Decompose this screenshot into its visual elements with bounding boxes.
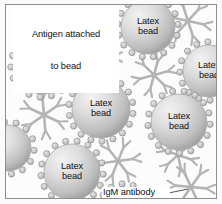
antigen-dot xyxy=(175,21,181,27)
antigen-dot xyxy=(174,32,180,38)
antigen-dot xyxy=(129,99,135,105)
latex-agglutination-figure: Latex beadLatex beadLatex beadLatex bead… xyxy=(0,0,222,204)
igm-antibody xyxy=(165,162,217,199)
latex-bead xyxy=(6,119,37,177)
antigen-dot xyxy=(48,93,54,99)
antigen-callout-line1: Antigen attached xyxy=(14,29,118,40)
antigen-dot xyxy=(31,147,37,153)
latex-bead xyxy=(115,5,181,60)
latex-bead xyxy=(145,88,213,156)
antigen-dot xyxy=(139,54,145,60)
antigen-dot xyxy=(38,172,44,178)
antigen-dot xyxy=(6,119,8,125)
igm-antibody-callout: IgM antibody xyxy=(102,187,170,198)
antigen-dot xyxy=(8,171,14,177)
antigen-dot xyxy=(145,198,151,199)
latex-bead-body xyxy=(121,5,175,54)
antigen-dot xyxy=(63,138,69,144)
antigen-dot xyxy=(216,41,217,47)
antigen-dot xyxy=(100,171,106,177)
antigen-dot xyxy=(13,120,19,126)
antigen-dot xyxy=(145,122,151,128)
antigen-dot xyxy=(130,111,136,117)
antigen-dot xyxy=(110,136,116,142)
antigen-dot xyxy=(99,138,105,144)
antigen-dot xyxy=(74,138,80,144)
antigen-dot xyxy=(66,112,72,118)
antigen-dot xyxy=(206,110,212,116)
antigen-dot xyxy=(177,69,183,75)
antigen-dot xyxy=(66,101,72,107)
latex-bead xyxy=(38,138,106,199)
antigen-dot xyxy=(58,198,64,199)
antigen-dot xyxy=(39,161,45,167)
latex-bead-body xyxy=(151,94,207,150)
antigen-dot xyxy=(146,111,152,117)
antigen-dot xyxy=(179,58,185,64)
figure-frame: Latex beadLatex beadLatex beadLatex bead… xyxy=(5,4,217,199)
antigen-attached-to-bead-callout: Antigen attached to bead xyxy=(13,8,119,93)
antigen-callout-line2: to bead xyxy=(14,61,118,72)
antigen-dot xyxy=(205,39,211,45)
latex-bead-body xyxy=(44,144,100,199)
antigen-dot xyxy=(88,136,94,142)
antigen-dot xyxy=(150,54,156,60)
antigen-dot xyxy=(181,88,187,94)
antigen-dot xyxy=(99,160,105,166)
antigen-dot xyxy=(176,150,182,156)
antigen-dot xyxy=(37,94,43,100)
antigen-dot xyxy=(170,88,176,94)
antigen-dot xyxy=(165,148,171,154)
antigen-dot xyxy=(207,97,213,103)
antigen-dot xyxy=(29,136,35,142)
antigen-dot xyxy=(207,121,213,127)
